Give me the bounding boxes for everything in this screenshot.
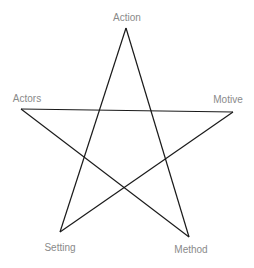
label-method: Method xyxy=(174,245,207,255)
label-action: Action xyxy=(113,13,141,23)
edge-action-method xyxy=(126,28,189,237)
edge-actors-motive xyxy=(21,109,233,112)
label-actors: Actors xyxy=(13,94,41,104)
pentagram-diagram: Action Actors Motive Setting Method xyxy=(0,0,254,268)
label-setting: Setting xyxy=(44,243,75,253)
edge-action-setting xyxy=(60,28,126,232)
edge-actors-method xyxy=(21,109,189,237)
label-motive: Motive xyxy=(213,95,242,105)
star-shape xyxy=(0,0,254,268)
edge-motive-setting xyxy=(60,112,233,232)
